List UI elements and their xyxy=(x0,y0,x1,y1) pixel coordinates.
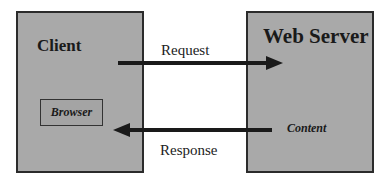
response-arrow-icon xyxy=(113,123,272,137)
request-arrow-icon xyxy=(118,56,283,70)
arrows xyxy=(0,0,389,185)
